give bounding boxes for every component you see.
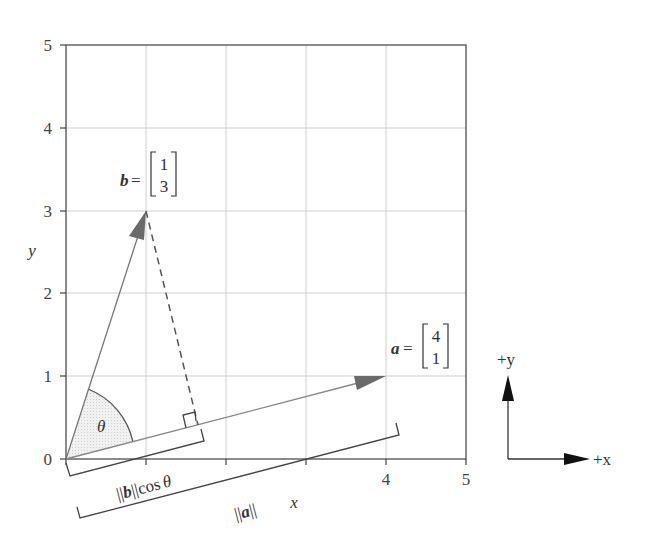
axis-ticks <box>60 45 466 465</box>
plus-y-label: +y <box>497 350 516 369</box>
vector-projection-figure: 5 4 3 2 1 0 4 5 x y θ ||b||cosθ ||a|| <box>0 0 646 549</box>
y-tick-2: 2 <box>44 284 53 303</box>
svg-text:||b||cosθ: ||b||cosθ <box>114 471 173 503</box>
projection-label: ||b||cosθ <box>114 471 173 503</box>
svg-text:4: 4 <box>432 327 441 346</box>
x-tick-5: 5 <box>462 470 471 489</box>
svg-text:1: 1 <box>160 155 169 174</box>
vector-a-label: a = 4 1 <box>391 324 448 368</box>
projection-dashed-line <box>146 211 198 425</box>
y-tick-5: 5 <box>44 36 53 55</box>
x-tick-labels: 4 5 <box>382 470 471 489</box>
svg-text:3: 3 <box>160 177 169 196</box>
grid-lines <box>66 45 466 459</box>
vector-b-label: b = 1 3 <box>120 152 176 196</box>
y-tick-1: 1 <box>44 367 53 386</box>
y-axis-label: y <box>26 241 36 260</box>
plus-y-arrowhead <box>502 375 514 401</box>
a-norm-label: ||a|| <box>232 500 258 524</box>
svg-text:b: b <box>120 171 129 190</box>
vector-b-arrowhead <box>129 211 146 240</box>
axes-orientation-legend: +y +x <box>497 350 612 469</box>
svg-text:||a||: ||a|| <box>232 500 258 524</box>
theta-label: θ <box>97 417 105 436</box>
plus-x-label: +x <box>593 450 612 469</box>
svg-text:a: a <box>391 339 400 358</box>
x-tick-4: 4 <box>382 470 391 489</box>
plot-frame <box>66 45 466 459</box>
svg-text:=: = <box>131 171 141 190</box>
y-tick-labels: 5 4 3 2 1 0 <box>44 36 53 469</box>
plus-x-arrowhead <box>564 453 590 465</box>
x-axis-label: x <box>289 493 298 512</box>
y-tick-4: 4 <box>44 119 53 138</box>
y-tick-0: 0 <box>44 450 53 469</box>
svg-text:1: 1 <box>432 349 441 368</box>
y-tick-3: 3 <box>44 202 53 221</box>
vector-a-arrowhead <box>354 376 386 390</box>
svg-text:=: = <box>403 339 413 358</box>
